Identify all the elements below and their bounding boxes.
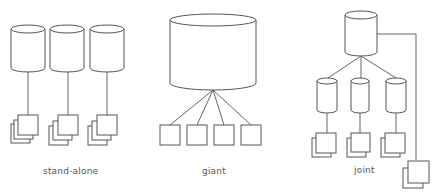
giant-label: giant: [202, 166, 226, 176]
database-cylinder-icon: [50, 25, 84, 72]
client-stack-icon: [312, 133, 336, 157]
client-icon: [187, 125, 207, 145]
database-cylinder-icon: [11, 25, 45, 72]
joint-group: [312, 11, 429, 188]
connector-line: [170, 90, 213, 125]
stand-alone-label: stand-alone: [43, 166, 98, 176]
joint-label: joint: [354, 165, 375, 175]
architecture-diagram: [0, 0, 436, 192]
database-cylinder-icon: [317, 78, 337, 113]
client-stack-icon: [88, 115, 117, 145]
client-stack-icon: [403, 161, 429, 188]
client-stack-icon: [11, 115, 38, 143]
client-stack-icon: [49, 115, 78, 145]
stand-alone-group: [11, 25, 124, 145]
database-cylinder-icon: [90, 25, 124, 72]
connector-line: [197, 90, 213, 125]
database-cylinder-icon: [170, 14, 256, 90]
database-cylinder-icon: [386, 78, 406, 113]
database-cylinder-icon: [345, 11, 377, 56]
database-cylinder-icon: [351, 78, 369, 113]
connector-line: [328, 56, 361, 78]
client-icon: [214, 125, 234, 145]
giant-group: [160, 14, 261, 145]
connector-line: [361, 56, 396, 78]
client-icon: [160, 125, 180, 145]
client-stack-icon: [347, 133, 370, 157]
client-icon: [241, 125, 261, 145]
client-stack-icon: [381, 133, 405, 157]
